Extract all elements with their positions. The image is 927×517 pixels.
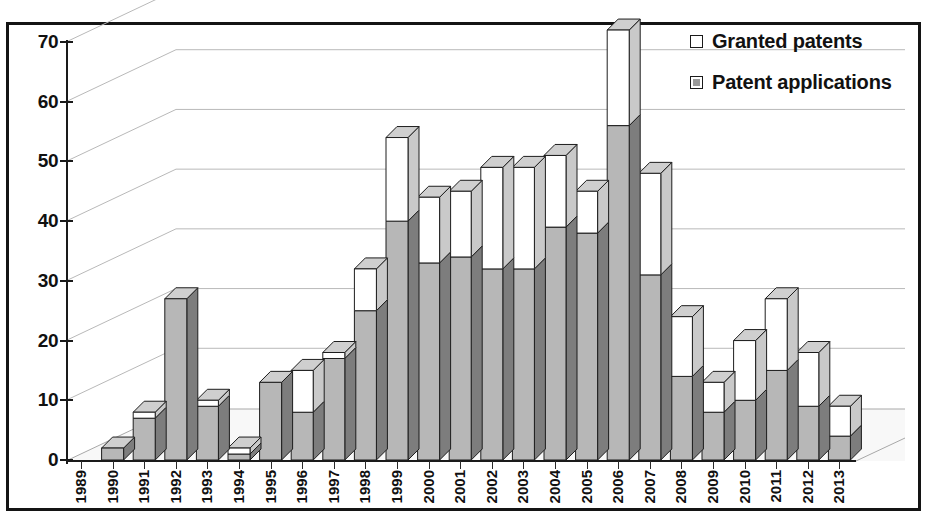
bar-side-granted-2005 (598, 180, 609, 233)
bar-top-face-2006 (607, 19, 640, 30)
bar-front-granted-2000 (418, 197, 440, 263)
x-tick (207, 461, 208, 469)
legend-label-patent-applications: Patent applications (712, 71, 892, 94)
x-tick (365, 461, 366, 469)
bar-top-face-2009 (702, 371, 735, 382)
bar-front-granted-2005 (576, 191, 598, 233)
bar-front-granted-1991 (133, 412, 155, 418)
chart-screenshot: 010203040506070 198919901991199219931994… (0, 0, 927, 517)
y-tick-label: 0 (16, 450, 58, 469)
bar-side-applications-2006 (629, 115, 640, 460)
bar-top-face-1999 (386, 127, 419, 138)
bar-side-granted-2007 (661, 162, 672, 275)
bar-top-face-1998 (354, 258, 387, 269)
bar-front-applications-1991 (133, 418, 155, 460)
bar-top-face-2000 (418, 186, 451, 197)
x-tick-label-1996: 1996 (294, 470, 310, 503)
bar-side-applications-2007 (661, 264, 672, 460)
bar-side-granted-2011 (787, 288, 798, 371)
x-tick-label-2009: 2009 (705, 470, 721, 503)
bar-side-granted-1997 (345, 342, 356, 359)
bar-side-applications-2005 (598, 222, 609, 460)
y-tick (60, 280, 73, 282)
bar-front-applications-2005 (576, 233, 598, 460)
bar-front-applications-1998 (354, 311, 376, 460)
bar-side-granted-1994 (250, 437, 261, 454)
bar-top-face-2003 (512, 156, 545, 167)
bar-side-applications-2010 (756, 389, 767, 460)
y-tick-label: 30 (16, 271, 58, 290)
x-tick (397, 461, 398, 469)
bar-side-granted-2000 (440, 186, 451, 263)
bar-side-granted-2002 (503, 156, 514, 269)
bar-top-face-1992 (165, 288, 198, 299)
x-tick-label-2011: 2011 (768, 470, 784, 503)
bar-side-applications-2011 (787, 359, 798, 460)
bar-side-granted-2012 (819, 342, 830, 407)
x-tick (239, 461, 240, 469)
x-tick-label-2010: 2010 (737, 470, 753, 503)
bar-top-face-1993 (196, 389, 229, 400)
y-tick (60, 220, 73, 222)
x-tick-label-2004: 2004 (547, 470, 563, 503)
y-axis-labels: 010203040506070 (8, 0, 58, 517)
bar-front-granted-2001 (449, 191, 471, 257)
bar-front-applications-1990 (102, 448, 124, 460)
x-axis-line (66, 460, 856, 462)
x-tick (176, 461, 177, 469)
bar-side-applications-1997 (345, 347, 356, 460)
bar-front-applications-1995 (260, 382, 282, 460)
x-tick-label-2002: 2002 (484, 470, 500, 503)
bar-top-face-2010 (734, 330, 767, 341)
bar-front-granted-1998 (354, 269, 376, 311)
y-tick (60, 399, 73, 401)
bar-front-granted-1997 (323, 353, 345, 359)
bar-front-applications-2006 (607, 126, 629, 460)
x-tick (713, 461, 714, 469)
x-tick-label-2003: 2003 (515, 470, 531, 503)
bar-front-applications-2000 (418, 263, 440, 460)
bar-side-applications-2009 (724, 401, 735, 460)
bar-top-face-2007 (639, 162, 672, 173)
bar-side-applications-2013 (850, 425, 861, 460)
bar-side-applications-1991 (155, 407, 166, 460)
x-tick-label-2006: 2006 (610, 470, 626, 503)
bar-front-granted-2010 (734, 341, 756, 401)
x-tick (555, 461, 556, 469)
legend-item-patent-applications: Patent applications (690, 71, 920, 94)
bar-top-face-1990 (102, 437, 135, 448)
x-tick (144, 461, 145, 469)
bar-front-granted-2006 (607, 30, 629, 126)
bar-side-applications-1993 (218, 395, 229, 460)
bar-front-applications-2007 (639, 275, 661, 460)
bar-front-applications-1992 (165, 299, 187, 460)
legend-label-granted-patents: Granted patents (712, 30, 862, 53)
x-tick (81, 461, 82, 469)
bar-top-face-1995 (260, 371, 293, 382)
bar-front-granted-2011 (765, 299, 787, 371)
y-tick-label: 40 (16, 211, 58, 230)
x-tick (587, 461, 588, 469)
x-tick-label-1999: 1999 (389, 470, 405, 503)
bar-front-applications-2001 (449, 257, 471, 460)
bar-top-face-1997 (323, 342, 356, 353)
bar-front-granted-1993 (196, 400, 218, 406)
x-tick (808, 461, 809, 469)
x-tick-label-2013: 2013 (831, 470, 847, 503)
bar-front-applications-2009 (702, 412, 724, 460)
bar-side-applications-1999 (408, 210, 419, 460)
y-tick-label: 60 (16, 92, 58, 111)
bar-top-face-2012 (797, 342, 830, 353)
bar-top-face-2011 (765, 288, 798, 299)
bar-front-applications-2003 (512, 269, 534, 460)
bar-side-applications-1992 (187, 288, 198, 460)
bar-front-granted-1996 (291, 370, 313, 412)
legend-swatch-granted-icon (690, 35, 703, 48)
x-tick (302, 461, 303, 469)
y-tick-label: 70 (16, 32, 58, 51)
bar-top-face-2005 (576, 180, 609, 191)
bar-top-face-1996 (291, 359, 324, 370)
bar-side-granted-2001 (471, 180, 482, 257)
x-tick-label-1991: 1991 (136, 470, 152, 503)
bar-front-applications-2012 (797, 406, 819, 460)
